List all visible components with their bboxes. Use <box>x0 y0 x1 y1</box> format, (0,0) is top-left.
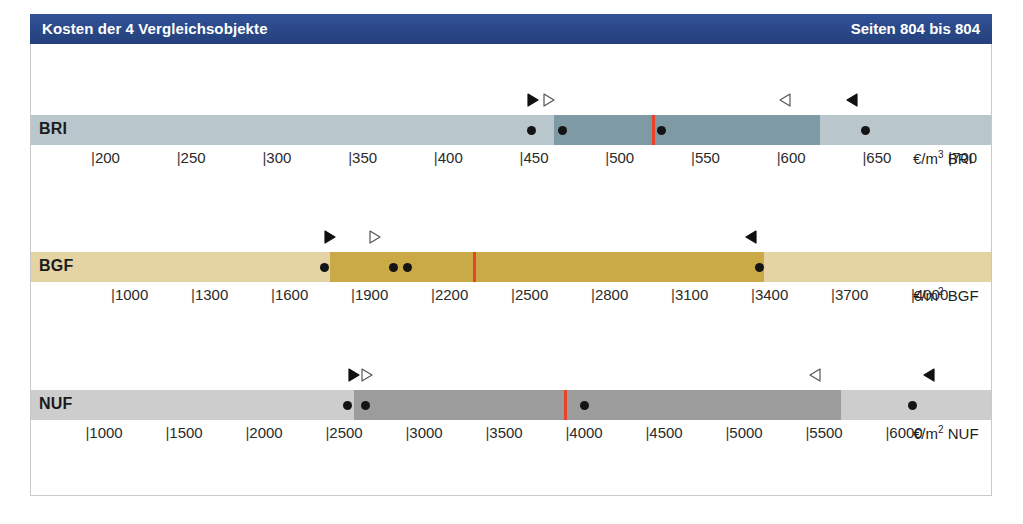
page-range-label: Seiten 804 bis 804 <box>851 20 980 37</box>
axis-tick: |1900 <box>348 286 388 303</box>
data-point <box>755 263 764 272</box>
marker-hollow-left-icon <box>809 368 821 382</box>
data-point <box>361 401 370 410</box>
row-label-nuf: NUF <box>39 395 72 413</box>
row-label-bgf: BGF <box>39 257 73 275</box>
axis-tick: |450 <box>517 149 549 166</box>
axis-nuf: |1000 |1500 |2000 |2500 |3000 |3500 |400… <box>31 424 991 450</box>
axis-tick: |3400 <box>748 286 788 303</box>
range-bar-base <box>31 115 991 145</box>
marker-hollow-right-icon <box>361 368 373 382</box>
axis-tick: |300 <box>259 149 291 166</box>
axis-tick: |2500 <box>508 286 548 303</box>
axis-tick: |550 <box>688 149 720 166</box>
marker-filled-left-icon <box>745 230 757 244</box>
axis-tick: |4500 <box>642 424 682 441</box>
range-bar-bgf <box>31 252 991 282</box>
median-line <box>473 252 476 282</box>
axis-tick: |3500 <box>482 424 522 441</box>
data-point <box>403 263 412 272</box>
marker-filled-left-icon <box>846 93 858 107</box>
axis-tick: |500 <box>602 149 634 166</box>
axis-tick: |1600 <box>268 286 308 303</box>
marker-filled-right-icon <box>348 368 360 382</box>
axis-tick: |1000 <box>82 424 122 441</box>
range-bar-interquartile <box>354 390 840 420</box>
axis-tick: |250 <box>174 149 206 166</box>
axis-tick: |1300 <box>188 286 228 303</box>
median-line <box>564 390 567 420</box>
axis-unit-label: €/m3 BRI <box>913 149 973 167</box>
axis-tick: |2500 <box>322 424 362 441</box>
range-bar-interquartile <box>554 115 820 145</box>
axis-tick: |2000 <box>242 424 282 441</box>
axis-tick: |2200 <box>428 286 468 303</box>
marker-hollow-right-icon <box>369 230 381 244</box>
data-point <box>320 263 329 272</box>
marker-filled-left-icon <box>923 368 935 382</box>
axis-tick: |200 <box>88 149 120 166</box>
marker-hollow-right-icon <box>543 93 555 107</box>
axis-tick: |4000 <box>562 424 602 441</box>
page-title: Kosten der 4 Vergleichsobjekte <box>42 20 268 37</box>
axis-tick: |1500 <box>162 424 202 441</box>
row-label-bri: BRI <box>39 120 67 138</box>
axis-bri: |200 |250 |300 |350 |400 |450 |500 |550 … <box>31 149 991 175</box>
axis-tick: |3000 <box>402 424 442 441</box>
data-point <box>558 126 567 135</box>
axis-tick: |350 <box>345 149 377 166</box>
range-bar-nuf <box>31 390 991 420</box>
axis-tick: |2800 <box>588 286 628 303</box>
marker-filled-right-icon <box>324 230 336 244</box>
data-point <box>527 126 536 135</box>
median-line <box>652 115 655 145</box>
axis-tick: |3100 <box>668 286 708 303</box>
axis-unit-label: €/m2 NUF <box>913 424 979 442</box>
axis-tick: |3700 <box>828 286 868 303</box>
axis-bgf: |1000 |1300 |1600 |1900 |2200 |2500 |280… <box>31 286 991 312</box>
axis-tick: |1000 <box>108 286 148 303</box>
axis-tick: |650 <box>859 149 891 166</box>
axis-tick: |600 <box>774 149 806 166</box>
marker-filled-right-icon <box>527 93 539 107</box>
axis-unit-label: €/m2 BGF <box>913 286 979 304</box>
axis-tick: |400 <box>431 149 463 166</box>
title-bar: Kosten der 4 Vergleichsobjekte Seiten 80… <box>30 14 992 44</box>
axis-tick: |5000 <box>722 424 762 441</box>
marker-hollow-left-icon <box>779 93 791 107</box>
chart-page: Kosten der 4 Vergleichsobjekte Seiten 80… <box>0 0 1023 524</box>
range-bar-bri <box>31 115 991 145</box>
axis-tick: |5500 <box>802 424 842 441</box>
